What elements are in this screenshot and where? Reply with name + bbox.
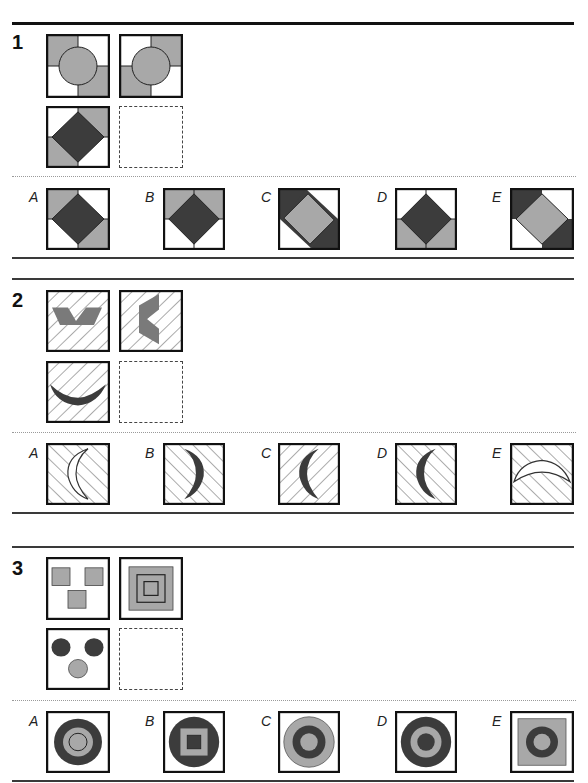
q3-answer-placeholder[interactable] — [119, 628, 183, 690]
q3-option-d-label: D — [377, 714, 387, 728]
q2-grid-top-left — [46, 290, 110, 352]
q3-option-c-label: C — [261, 714, 271, 728]
top-rule — [12, 22, 574, 25]
q2-option-c-label: C — [261, 446, 271, 460]
q3-option-e-label: E — [492, 714, 501, 728]
q1-answer-placeholder[interactable] — [119, 106, 183, 168]
q3-dotted-divider — [12, 700, 576, 701]
q3-grid-top-left — [46, 557, 110, 620]
q1-dotted-divider — [12, 176, 576, 177]
q1-option-a[interactable] — [46, 188, 110, 250]
q2-option-c[interactable] — [278, 443, 340, 505]
q2-option-a-label: A — [29, 446, 38, 460]
q2-grid-top-right — [119, 290, 183, 352]
q2-option-b[interactable] — [163, 443, 225, 505]
q2-bottom-rule — [12, 512, 574, 514]
q1-grid-top-right — [119, 34, 183, 98]
q1-grid-top-left — [46, 34, 110, 98]
q1-grid-bottom-left — [46, 106, 110, 168]
q3-top-rule — [12, 546, 574, 548]
q2-option-a[interactable] — [46, 443, 110, 505]
q3-option-d[interactable] — [395, 711, 457, 773]
q1-option-a-label: A — [29, 190, 38, 204]
q2-option-d[interactable] — [395, 443, 457, 505]
q2-option-b-label: B — [145, 446, 154, 460]
question-3-number: 3 — [12, 558, 23, 578]
q3-option-e[interactable] — [510, 711, 574, 773]
question-1-number: 1 — [12, 32, 23, 52]
q2-grid-bottom-left — [46, 361, 110, 423]
q2-top-rule — [12, 278, 574, 280]
q1-option-d[interactable] — [395, 188, 457, 250]
q1-option-c-label: C — [261, 190, 271, 204]
q3-option-a-label: A — [29, 714, 38, 728]
q3-option-a[interactable] — [46, 711, 110, 773]
q1-option-b[interactable] — [163, 188, 225, 250]
q2-dotted-divider — [12, 432, 576, 433]
q1-option-d-label: D — [377, 190, 387, 204]
q3-option-b[interactable] — [163, 711, 225, 773]
q2-option-e-label: E — [492, 446, 501, 460]
q2-option-d-label: D — [377, 446, 387, 460]
q1-option-b-label: B — [145, 190, 154, 204]
q2-answer-placeholder[interactable] — [119, 361, 183, 423]
q3-grid-top-right — [119, 557, 183, 620]
q3-grid-bottom-left — [46, 628, 110, 690]
q1-option-e[interactable] — [510, 188, 574, 250]
q3-bottom-rule — [12, 780, 574, 782]
q3-option-b-label: B — [145, 714, 154, 728]
q1-bottom-rule — [12, 257, 574, 259]
q3-option-c[interactable] — [278, 711, 340, 773]
q2-option-e[interactable] — [510, 443, 574, 505]
question-2-number: 2 — [12, 290, 23, 310]
q1-option-e-label: E — [492, 190, 501, 204]
q1-option-c[interactable] — [278, 188, 340, 250]
